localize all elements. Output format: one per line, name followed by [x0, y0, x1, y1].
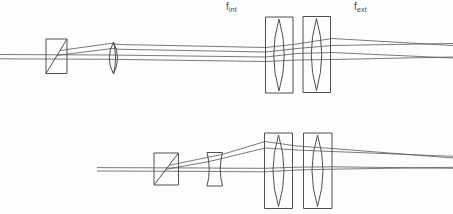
telescope-lens-right-bottom — [312, 135, 323, 207]
relay-lens-top — [109, 42, 117, 74]
telescope-housing-right-bottom — [304, 133, 333, 209]
beamsplitter-cube-top — [46, 39, 67, 74]
telescope-housing-right-top — [303, 17, 331, 93]
label-f-int: fint — [226, 1, 237, 16]
f-int-subscript: int — [229, 6, 237, 13]
f-ext-subscript: ext — [357, 6, 367, 13]
telescope-housing-left-top — [266, 17, 294, 93]
concave-lens-bottom — [207, 153, 223, 187]
label-f-ext: fext — [354, 1, 367, 16]
bottom-fan-ray-upper — [169, 142, 453, 166]
optical-diagram-figure: fint fext — [0, 0, 453, 214]
top-input-ray-lower — [0, 57, 453, 62]
top-input-ray-upper — [0, 53, 453, 59]
beamsplitter-cube-bottom — [154, 153, 179, 185]
diagram-svg — [0, 0, 453, 214]
telescope-lens-right-top — [311, 19, 322, 91]
